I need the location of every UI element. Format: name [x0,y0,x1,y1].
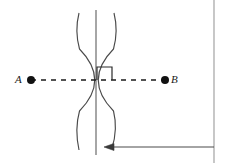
point-b-label: B [171,74,178,85]
geometry-figure: A B [0,0,226,163]
point-a-dot [27,76,35,84]
arc-from-a [77,13,95,150]
bisector-pointer-arrow-head [104,144,114,151]
construction-diagram [0,0,226,163]
point-b-dot [161,76,169,84]
point-a-label: A [15,74,22,85]
